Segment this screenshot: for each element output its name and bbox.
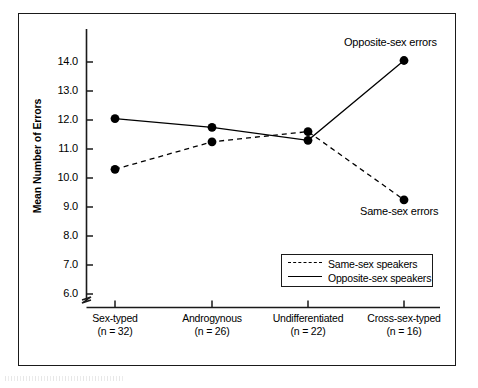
legend-dashed-line-icon bbox=[288, 262, 322, 265]
annotation-same-sex-errors: Same-sex errors bbox=[360, 205, 438, 217]
series-line-opposite-sex-speakers bbox=[115, 61, 404, 141]
y-axis-break-icon bbox=[82, 297, 91, 303]
y-tick-label-13: 13.0 bbox=[38, 84, 78, 96]
x-category-n: (n = 26) bbox=[160, 325, 264, 338]
y-tick-label-6: 6.0 bbox=[38, 287, 78, 299]
x-category-n: (n = 16) bbox=[351, 325, 457, 338]
x-category-name: Sex-typed bbox=[67, 312, 163, 325]
series-markers-same-sex-speakers bbox=[111, 127, 409, 204]
y-tick-marks bbox=[87, 62, 94, 294]
figure-container: Mean Number of Errors 14.0 13.0 12.0 11.… bbox=[0, 0, 478, 388]
series-line-same-sex-speakers bbox=[115, 132, 404, 200]
y-tick-label-11: 11.0 bbox=[38, 142, 78, 154]
y-tick-label-9: 9.0 bbox=[38, 200, 78, 212]
legend-solid-line-icon bbox=[288, 276, 322, 279]
scan-artifact bbox=[5, 376, 125, 381]
y-axis-title: Mean Number of Errors bbox=[31, 76, 43, 236]
series-markers-opposite-sex-speakers bbox=[111, 56, 409, 145]
legend-label: Same-sex speakers bbox=[328, 258, 417, 270]
x-category-n: (n = 32) bbox=[67, 325, 163, 338]
x-category-label-undifferentiated: Undifferentiated (n = 22) bbox=[251, 312, 365, 337]
x-category-label-sex-typed: Sex-typed (n = 32) bbox=[67, 312, 163, 337]
y-tick-label-10: 10.0 bbox=[38, 171, 78, 183]
x-category-label-androgynous: Androgynous (n = 26) bbox=[160, 312, 264, 337]
y-tick-label-12: 12.0 bbox=[38, 113, 78, 125]
annotation-opposite-sex-errors: Opposite-sex errors bbox=[344, 36, 437, 48]
x-category-name: Androgynous bbox=[160, 312, 264, 325]
x-category-name: Cross-sex-typed bbox=[351, 312, 457, 325]
chart-legend: Same-sex speakers Opposite-sex speakers bbox=[281, 254, 433, 287]
legend-label: Opposite-sex speakers bbox=[328, 272, 431, 284]
legend-item-same-sex-speakers: Same-sex speakers bbox=[288, 256, 417, 271]
x-category-label-cross-sex-typed: Cross-sex-typed (n = 16) bbox=[351, 312, 457, 337]
y-tick-label-7: 7.0 bbox=[38, 258, 78, 270]
legend-item-opposite-sex-speakers: Opposite-sex speakers bbox=[288, 270, 431, 285]
y-tick-label-8: 8.0 bbox=[38, 229, 78, 241]
y-tick-label-14: 14.0 bbox=[38, 55, 78, 67]
x-tick-marks bbox=[115, 301, 404, 308]
x-category-name: Undifferentiated bbox=[251, 312, 365, 325]
x-category-n: (n = 22) bbox=[251, 325, 365, 338]
